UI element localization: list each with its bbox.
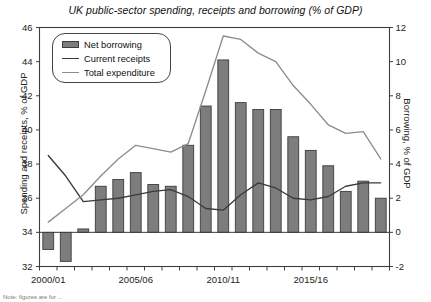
y-tick-label-right: 8 bbox=[396, 90, 420, 101]
bar bbox=[43, 232, 54, 249]
bar bbox=[183, 145, 194, 232]
bar bbox=[95, 186, 106, 232]
chart-figure: UK public-sector spending, receipts and … bbox=[0, 0, 431, 302]
bar bbox=[358, 181, 369, 232]
bar-series-net-borrowing bbox=[43, 60, 386, 261]
legend-item-net-borrowing: Net borrowing bbox=[62, 38, 142, 51]
bar bbox=[253, 109, 264, 232]
bar bbox=[235, 103, 246, 233]
y-tick-label-left: 42 bbox=[11, 90, 33, 101]
y-tick-label-left: 34 bbox=[11, 226, 33, 237]
bar bbox=[340, 191, 351, 232]
y-tick-label-right: 4 bbox=[396, 158, 420, 169]
y-tick-label-right: 12 bbox=[396, 22, 420, 33]
legend-label: Total expenditure bbox=[84, 68, 155, 78]
y-tick-label-right: -2 bbox=[396, 261, 420, 272]
y-tick-label-left: 32 bbox=[11, 261, 33, 272]
y-tick-label-left: 46 bbox=[11, 22, 33, 33]
bar bbox=[288, 137, 299, 233]
legend-swatch-line-dark-icon bbox=[62, 58, 79, 59]
bar bbox=[113, 179, 124, 232]
x-tick-label: 2010/11 bbox=[206, 274, 240, 285]
bar bbox=[165, 186, 176, 232]
y-tick-label-left: 36 bbox=[11, 192, 33, 203]
chart-footnote: Note: figures are for ... bbox=[3, 294, 63, 300]
y-tick-label-left: 38 bbox=[11, 158, 33, 169]
bar bbox=[270, 109, 281, 232]
legend-swatch-line-light-icon bbox=[62, 72, 79, 73]
y-tick-label-left: 40 bbox=[11, 124, 33, 135]
bar bbox=[78, 229, 89, 232]
x-tick-label: 2005/06 bbox=[119, 274, 153, 285]
legend-label: Current receipts bbox=[84, 54, 150, 64]
y-tick-label-right: 0 bbox=[396, 226, 420, 237]
legend-label: Net borrowing bbox=[84, 40, 142, 50]
y-tick-label-right: 2 bbox=[396, 192, 420, 203]
x-tick-label: 2015/16 bbox=[294, 274, 328, 285]
bar bbox=[323, 166, 334, 233]
legend-swatch-bar-icon bbox=[62, 41, 79, 48]
bar bbox=[130, 173, 141, 233]
bar bbox=[200, 106, 211, 232]
y-tick-label-right: 10 bbox=[396, 56, 420, 67]
legend-item-total-expenditure: Total expenditure bbox=[62, 66, 155, 79]
bar bbox=[305, 150, 316, 232]
y-tick-label-right: 6 bbox=[396, 124, 420, 135]
legend-item-current-receipts: Current receipts bbox=[62, 52, 150, 65]
bar bbox=[375, 198, 386, 232]
bar bbox=[60, 232, 71, 261]
x-tick-label: 2000/01 bbox=[31, 274, 65, 285]
chart-legend: Net borrowing Current receipts Total exp… bbox=[52, 33, 171, 83]
y-tick-label-left: 44 bbox=[11, 56, 33, 67]
